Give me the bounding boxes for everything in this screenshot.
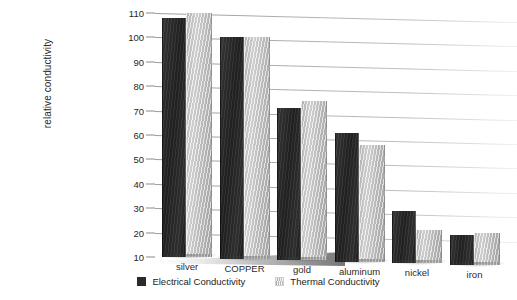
plot-area bbox=[155, 0, 517, 300]
bar-thermal bbox=[359, 145, 385, 262]
bar-shadow bbox=[159, 254, 217, 259]
dark-square-swatch-icon bbox=[137, 277, 146, 286]
y-axis-title: relative conductivity bbox=[42, 0, 53, 169]
x-category-label-copper: COPPER bbox=[224, 263, 264, 274]
x-category-label-silver: silver bbox=[176, 261, 198, 272]
bar-electrical bbox=[220, 37, 244, 258]
bar-electrical bbox=[392, 211, 416, 264]
y-tick-label: 60 bbox=[133, 130, 144, 141]
legend-label-electrical: Electrical Conductivity bbox=[152, 276, 245, 287]
y-tick-mark bbox=[146, 183, 155, 184]
y-axis-tick-labels: 110100908070605040302010 bbox=[118, 0, 144, 300]
conductivity-bar-chart: relative conductivity 110100908070605040… bbox=[0, 0, 517, 300]
bar-thermal bbox=[301, 101, 327, 260]
y-tick-mark bbox=[146, 159, 155, 160]
y-tick-mark bbox=[146, 86, 155, 87]
y-tick-label: 30 bbox=[133, 203, 144, 214]
y-tick-label: 20 bbox=[133, 227, 144, 238]
bar-shadow bbox=[217, 256, 275, 261]
bar-shadow bbox=[389, 260, 447, 265]
y-tick-mark bbox=[146, 232, 155, 233]
x-category-label-gold: gold bbox=[293, 264, 311, 275]
y-tick-label: 80 bbox=[133, 81, 144, 92]
legend-item-thermal: Thermal Conductivity bbox=[275, 276, 379, 287]
bar-thermal bbox=[416, 230, 442, 263]
y-tick-label: 90 bbox=[133, 56, 144, 67]
bar-electrical bbox=[335, 133, 359, 262]
y-tick-mark bbox=[146, 208, 155, 209]
y-tick-label: 50 bbox=[133, 154, 144, 165]
bar-thermal bbox=[244, 37, 270, 258]
y-tick-mark bbox=[146, 37, 155, 38]
y-tick-mark bbox=[146, 135, 155, 136]
y-tick-label: 70 bbox=[133, 105, 144, 116]
y-tick-mark bbox=[146, 61, 155, 62]
light-square-swatch-icon bbox=[275, 277, 284, 286]
bar-thermal bbox=[474, 233, 500, 265]
bar-shadow bbox=[332, 259, 390, 264]
chart-legend: Electrical Conductivity Thermal Conducti… bbox=[0, 276, 517, 287]
legend-label-thermal: Thermal Conductivity bbox=[290, 276, 379, 287]
legend-item-electrical: Electrical Conductivity bbox=[137, 276, 245, 287]
bar-electrical bbox=[450, 235, 474, 265]
bar-thermal bbox=[186, 13, 212, 257]
y-tick-mark bbox=[146, 110, 155, 111]
bar-shadow bbox=[447, 262, 505, 267]
y-tick-label: 110 bbox=[129, 8, 144, 19]
bar-electrical bbox=[162, 18, 186, 257]
y-tick-mark bbox=[146, 257, 155, 258]
y-tick-mark bbox=[146, 13, 155, 14]
y-tick-label: 40 bbox=[133, 178, 144, 189]
y-tick-label: 10 bbox=[133, 252, 144, 263]
bar-shadow bbox=[274, 257, 332, 262]
bar-electrical bbox=[277, 108, 301, 260]
y-tick-label: 100 bbox=[128, 32, 144, 43]
